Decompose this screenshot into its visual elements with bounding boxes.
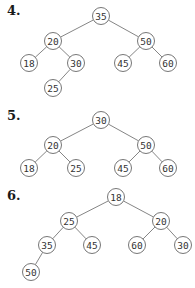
tree-edge	[35, 252, 42, 264]
tree-node: 45	[115, 55, 132, 72]
binary-tree: 30205018254560	[21, 112, 177, 177]
node-value: 45	[117, 163, 128, 174]
node-value: 25	[70, 163, 81, 174]
node-value: 50	[140, 36, 152, 47]
tree-edge	[143, 227, 155, 239]
tree-edge	[167, 227, 178, 238]
tree-edge	[77, 201, 109, 217]
tree-node: 30	[93, 112, 110, 129]
tree-edge	[124, 201, 154, 217]
tree-node: 45	[115, 160, 132, 177]
node-value: 20	[47, 140, 59, 151]
tree-edge	[129, 47, 140, 57]
tree-node: 45	[84, 237, 101, 254]
tree-node: 50	[138, 33, 155, 50]
node-value: 60	[162, 58, 174, 69]
tree-edge	[35, 151, 47, 162]
tree-node: 20	[153, 213, 170, 230]
tree-edge	[59, 69, 70, 81]
tree-node: 25	[68, 160, 85, 177]
tree-edge	[59, 151, 70, 162]
tree-edge	[152, 47, 162, 57]
tree-node: 50	[138, 137, 155, 154]
tree-edge	[61, 124, 94, 141]
tree-node: 30	[68, 55, 85, 72]
tree-node: 35	[39, 237, 56, 254]
node-value: 20	[155, 216, 167, 227]
node-value: 45	[86, 240, 97, 251]
node-value: 18	[23, 58, 35, 69]
tree-node: 30	[175, 237, 192, 254]
node-value: 50	[25, 267, 37, 278]
node-value: 60	[131, 240, 143, 251]
tree-edge	[152, 151, 162, 162]
tree-edge	[108, 124, 138, 141]
tree-edge	[53, 227, 64, 238]
tree-node: 25	[45, 80, 62, 97]
tree-edge	[129, 151, 140, 162]
tree-node: 50	[23, 264, 40, 281]
node-value: 20	[47, 36, 59, 47]
tree-edge	[108, 20, 138, 37]
tree-edge	[35, 47, 46, 58]
node-value: 18	[23, 163, 35, 174]
tree-node: 25	[61, 213, 78, 230]
tree-node: 60	[129, 237, 146, 254]
binary-tree: 1825203545603050	[23, 189, 192, 281]
node-value: 30	[95, 115, 107, 126]
tree-node: 18	[21, 55, 38, 72]
tree-node: 20	[45, 137, 62, 154]
node-value: 35	[95, 11, 106, 22]
binary-tree: 3520501830456025	[21, 8, 177, 97]
node-value: 18	[110, 192, 122, 203]
node-value: 45	[117, 58, 128, 69]
tree-edge	[59, 47, 70, 57]
tree-node: 20	[45, 33, 62, 50]
node-value: 30	[70, 58, 82, 69]
node-value: 50	[140, 140, 152, 151]
node-value: 60	[162, 163, 174, 174]
tree-edge	[75, 227, 86, 239]
node-value: 35	[41, 240, 52, 251]
tree-node: 60	[160, 160, 177, 177]
tree-edge	[61, 20, 94, 37]
node-value: 30	[177, 240, 189, 251]
tree-node: 18	[108, 189, 125, 206]
tree-node: 35	[93, 8, 110, 25]
node-value: 25	[63, 216, 74, 227]
node-value: 25	[47, 83, 58, 94]
tree-node: 18	[21, 160, 38, 177]
tree-diagrams: 3520501830456025302050182545601825203545…	[0, 0, 195, 288]
tree-node: 60	[160, 55, 177, 72]
